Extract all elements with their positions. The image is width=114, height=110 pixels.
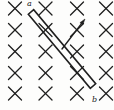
field-cross-icon	[100, 24, 113, 37]
field-cross-icon	[9, 24, 22, 37]
field-cross-icon	[100, 87, 113, 100]
field-cross-icon	[9, 2, 22, 15]
field-cross-icon	[39, 2, 52, 15]
physics-diagram-figure: a b	[0, 0, 114, 110]
field-cross-icon	[9, 87, 22, 100]
diagram-canvas	[0, 0, 114, 110]
field-cross-icon	[9, 67, 22, 80]
field-cross-icon	[100, 2, 113, 15]
rod-endpoint-label-a: a	[27, 0, 32, 8]
field-cross-icon	[100, 67, 113, 80]
field-cross-icon	[71, 87, 84, 100]
field-cross-icon	[39, 87, 52, 100]
field-cross-icon	[39, 67, 52, 80]
rod-endpoint-label-b: b	[92, 96, 97, 104]
field-cross-icon	[39, 45, 52, 58]
field-cross-icon	[71, 2, 84, 15]
field-cross-icon	[100, 45, 113, 58]
magnetic-field-into-page-marks	[9, 2, 113, 100]
field-cross-icon	[9, 45, 22, 58]
